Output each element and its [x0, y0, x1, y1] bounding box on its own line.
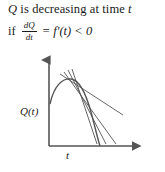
statement-line-1: Q is decreasing at time t	[8, 1, 165, 17]
tangent-line-3	[68, 70, 106, 144]
statement-block: Q is decreasing at time t if dQ dt = f′(…	[8, 1, 165, 17]
time-variable: t	[128, 2, 132, 16]
fraction-denominator: dt	[24, 32, 35, 42]
derivative-expression: = f′(t) < 0	[42, 24, 93, 38]
y-axis-label: Q(t)	[20, 105, 38, 117]
graph-area: Q(t) t	[18, 52, 158, 170]
quantity-variable: Q	[8, 2, 17, 16]
derivative-fraction: dQ dt	[22, 20, 37, 42]
statement-line-1-text: is decreasing at time	[17, 2, 128, 16]
x-axis-label: t	[66, 149, 69, 161]
quantity-curve	[50, 79, 100, 146]
figure-panel: Q is decreasing at time t if dQ dt = f′(…	[0, 0, 165, 172]
statement-line-2: if dQ dt = f′(t) < 0	[8, 20, 92, 42]
fraction-numerator: dQ	[22, 20, 37, 30]
graph-svg	[18, 52, 158, 170]
if-keyword: if	[8, 24, 16, 38]
